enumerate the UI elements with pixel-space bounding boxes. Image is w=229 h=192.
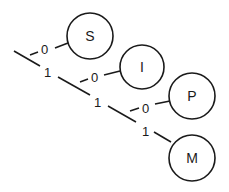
edge-0-to-I-b (104, 71, 120, 75)
node-label: P (187, 88, 196, 104)
node-label: S (85, 28, 94, 44)
edge-label: 1 (44, 65, 51, 80)
edge-label: 1 (94, 95, 101, 110)
edge-label: 1 (142, 124, 149, 139)
edge-label: 0 (142, 101, 149, 116)
node-label: M (186, 150, 198, 166)
node-I: I (120, 45, 164, 89)
edge-0-to-S-b (55, 43, 68, 48)
edge-0-to-I-a (80, 79, 88, 82)
edge-label: 0 (91, 70, 98, 85)
edge-0-to-P-a (130, 108, 139, 111)
spine-segment-4 (154, 132, 171, 142)
spine-segment-3 (108, 106, 136, 122)
node-label: I (140, 59, 144, 75)
edge-0-to-P-b (155, 101, 170, 104)
edge-label: 0 (41, 42, 48, 57)
code-tree-diagram: 0 1 0 1 0 1 S I P M (0, 0, 229, 192)
edge-0-to-S-a (30, 52, 38, 55)
node-P: P (169, 73, 215, 119)
node-M: M (169, 135, 215, 181)
node-S: S (67, 13, 113, 59)
